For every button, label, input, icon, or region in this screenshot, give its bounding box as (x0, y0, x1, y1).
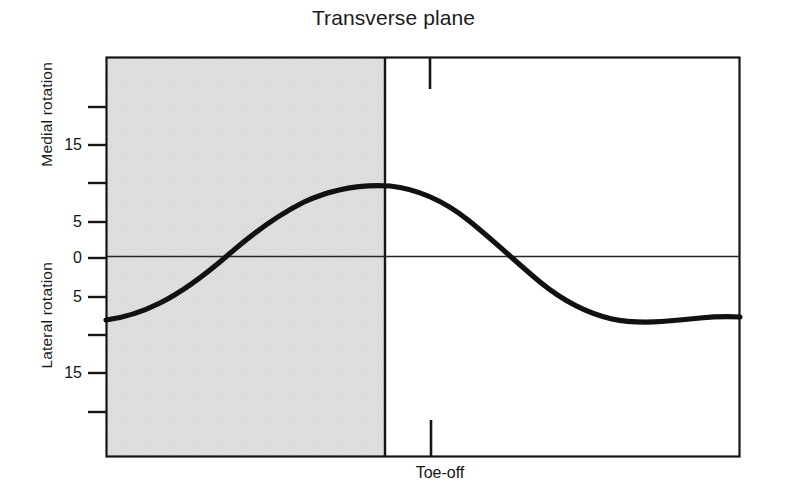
y-axis-ticks (88, 107, 107, 412)
plot-area (0, 0, 787, 500)
chart-figure: Transverse plane Medial rotation Lateral… (0, 0, 787, 500)
